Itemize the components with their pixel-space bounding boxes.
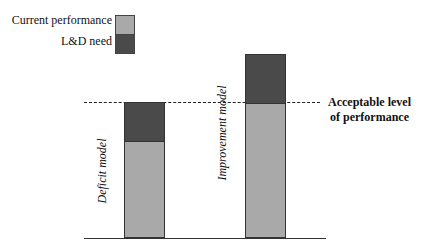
legend-label-current-performance: Current performance: [0, 13, 112, 28]
legend-label-ld-need: L&D need: [0, 34, 112, 49]
legend-swatch-ld-need: [115, 34, 135, 54]
improvement-bar-ld-need: [245, 54, 286, 104]
deficit-bar-ld-need: [124, 102, 165, 142]
improvement-model-label: Improvement model: [215, 78, 231, 188]
deficit-model-label: Deficit model: [95, 121, 111, 221]
improvement-bar-current-performance: [245, 103, 286, 238]
acceptable-level-label-line1: Acceptable level: [318, 95, 421, 110]
acceptable-level-label: Acceptable level of performance: [318, 95, 421, 125]
baseline-axis: [84, 238, 326, 239]
acceptable-level-label-line2: of performance: [318, 110, 421, 125]
legend-swatch-current-performance: [115, 15, 135, 35]
deficit-bar-current-performance: [124, 141, 165, 238]
